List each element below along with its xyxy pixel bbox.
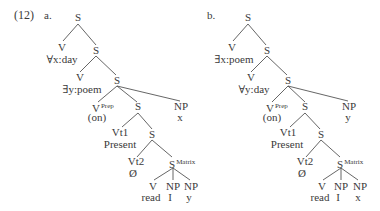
tree-a-vprep-sup: Prep bbox=[101, 102, 114, 110]
tree-a-s1: S bbox=[93, 45, 99, 56]
tree-a-v-leaf-term: read bbox=[142, 192, 161, 203]
tree-b-vt1: Vt1 bbox=[280, 127, 297, 138]
tree-a-s3: S bbox=[135, 101, 141, 112]
tree-b-vprep-term: (on) bbox=[263, 112, 281, 123]
tree-a-v2-term: ∃y:poem bbox=[63, 84, 102, 95]
tree-a-vprep-term: (on) bbox=[88, 112, 106, 123]
tree-a-smatrix: SMatrix bbox=[169, 157, 195, 170]
tree-b-smatrix-label: S bbox=[337, 158, 343, 170]
tree-b-label: b. bbox=[207, 10, 215, 21]
tree-b-vt1-term: Present bbox=[271, 139, 303, 150]
tree-a-s4: S bbox=[149, 129, 155, 140]
tree-b-np1-term: I bbox=[336, 192, 340, 203]
tree-a-vt1-term: Present bbox=[104, 139, 136, 150]
tree-a-label: a. bbox=[44, 10, 52, 21]
tree-b-v1: V bbox=[228, 42, 236, 53]
tree-a-root-s: S bbox=[75, 12, 81, 23]
tree-a-np1-term: I bbox=[168, 192, 172, 203]
tree-a-smatrix-sup: Matrix bbox=[176, 158, 195, 166]
example-number: (12) bbox=[14, 10, 34, 21]
tree-a-vt2-term: Ø bbox=[129, 168, 137, 179]
tree-a-np-outer-term: x bbox=[177, 112, 183, 123]
tree-b-smatrix-sup: Matrix bbox=[344, 158, 363, 166]
tree-b-vt2-term: Ø bbox=[298, 168, 306, 179]
tree-a-v1: V bbox=[58, 42, 66, 53]
tree-a-np2-term: y bbox=[186, 192, 192, 203]
tree-b-v2-term: ∀y:day bbox=[238, 84, 269, 95]
tree-b-np-outer-term: y bbox=[345, 112, 351, 123]
tree-a-smatrix-label: S bbox=[169, 158, 175, 170]
tree-b-smatrix: SMatrix bbox=[337, 157, 363, 170]
tree-b-vprep-sup: Prep bbox=[275, 102, 288, 110]
tree-a-vt2: Vt2 bbox=[128, 156, 145, 167]
tree-b-s4: S bbox=[318, 129, 324, 140]
tree-b-v-leaf-term: read bbox=[311, 192, 330, 203]
tree-b-s1: S bbox=[264, 45, 270, 56]
tree-a-vt1: Vt1 bbox=[112, 127, 129, 138]
tree-b-root-s: S bbox=[245, 12, 251, 23]
tree-b-s3: S bbox=[302, 101, 308, 112]
tree-b-v2: V bbox=[247, 72, 255, 83]
tree-a-s2: S bbox=[114, 75, 120, 86]
tree-a-v1-term: ∀x:day bbox=[46, 54, 77, 65]
tree-b-np2-term: x bbox=[355, 192, 361, 203]
tree-b-s2: S bbox=[285, 75, 291, 86]
tree-b-v1-term: ∃x:poem bbox=[215, 54, 254, 65]
tree-b-vt2: Vt2 bbox=[297, 156, 314, 167]
tree-a-v2: V bbox=[76, 72, 84, 83]
